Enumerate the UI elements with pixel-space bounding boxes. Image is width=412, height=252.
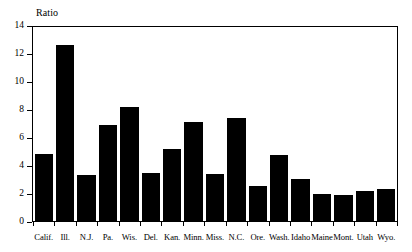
bar bbox=[120, 107, 138, 221]
bar-slot bbox=[183, 27, 204, 221]
x-axis-tick-label: Mont. bbox=[333, 231, 354, 247]
y-axis-tick bbox=[27, 110, 32, 111]
x-axis-tick bbox=[140, 222, 141, 226]
bar bbox=[377, 189, 395, 221]
bar bbox=[270, 155, 288, 221]
x-axis-tick bbox=[97, 222, 98, 226]
bar-slot bbox=[97, 27, 118, 221]
y-axis-tick-label: 14 bbox=[0, 21, 24, 31]
y-axis-tick-label: 10 bbox=[0, 77, 24, 87]
x-axis-tick bbox=[119, 222, 120, 226]
bar-slot bbox=[333, 27, 354, 221]
x-axis-tick-label: Idaho bbox=[290, 231, 311, 247]
bar-slot bbox=[33, 27, 54, 221]
x-axis-tick bbox=[204, 222, 205, 226]
x-axis-tick bbox=[290, 222, 291, 226]
bar bbox=[249, 186, 267, 221]
x-axis-tick-label: Wash. bbox=[268, 231, 289, 247]
bar-slot bbox=[140, 27, 161, 221]
y-axis-tick bbox=[27, 222, 32, 223]
bar-slot bbox=[204, 27, 225, 221]
bar-slot bbox=[226, 27, 247, 221]
bar-slot bbox=[54, 27, 75, 221]
x-axis-tick bbox=[247, 222, 248, 226]
x-axis-tick bbox=[376, 222, 377, 226]
bar bbox=[356, 191, 374, 221]
x-axis-tick bbox=[54, 222, 55, 226]
bar bbox=[35, 154, 53, 221]
bar bbox=[227, 118, 245, 221]
x-axis-tick bbox=[161, 222, 162, 226]
x-axis-tick-label: Ore. bbox=[247, 231, 268, 247]
x-axis-tick-label: Minn. bbox=[183, 231, 204, 247]
x-axis-tick-label: Wis. bbox=[119, 231, 140, 247]
x-axis-tick-label: N.C. bbox=[226, 231, 247, 247]
y-axis-tick bbox=[27, 166, 32, 167]
bar-slot bbox=[268, 27, 289, 221]
x-axis-tick bbox=[311, 222, 312, 226]
bar bbox=[77, 175, 95, 221]
x-axis-tick-label: Maine bbox=[311, 231, 332, 247]
bar bbox=[291, 179, 309, 221]
bar bbox=[334, 195, 352, 221]
bar-slot bbox=[161, 27, 182, 221]
y-axis-tick bbox=[27, 26, 32, 27]
x-axis-tick bbox=[354, 222, 355, 226]
x-axis-tick-label: Del. bbox=[140, 231, 161, 247]
bar-slot bbox=[76, 27, 97, 221]
x-axis-tick-label: Pa. bbox=[97, 231, 118, 247]
y-axis-tick-label: 4 bbox=[0, 161, 24, 171]
x-axis-tick bbox=[269, 222, 270, 226]
x-axis-tick-label: Utah bbox=[354, 231, 375, 247]
bar-slot bbox=[354, 27, 375, 221]
x-axis-tick bbox=[397, 222, 398, 226]
y-axis-tick bbox=[27, 82, 32, 83]
bar-chart-figure: Ratio Calif.Ill.N.J.Pa.Wis.Del.Kan.Minn.… bbox=[0, 0, 412, 252]
y-axis-tick-label: 6 bbox=[0, 133, 24, 143]
bar-slot bbox=[376, 27, 397, 221]
x-axis-labels: Calif.Ill.N.J.Pa.Wis.Del.Kan.Minn.Miss.N… bbox=[33, 231, 397, 247]
bar-slot bbox=[247, 27, 268, 221]
bar-slot bbox=[290, 27, 311, 221]
y-axis-tick bbox=[27, 54, 32, 55]
y-axis-tick bbox=[27, 194, 32, 195]
x-axis-tick-label: Ill. bbox=[54, 231, 75, 247]
y-axis-tick-label: 2 bbox=[0, 189, 24, 199]
y-axis-title: Ratio bbox=[36, 7, 58, 19]
y-axis-tick bbox=[27, 138, 32, 139]
bar bbox=[163, 149, 181, 221]
x-axis-tick bbox=[333, 222, 334, 226]
x-axis-tick-label: Kan. bbox=[161, 231, 182, 247]
x-axis-tick bbox=[226, 222, 227, 226]
x-axis-tick bbox=[183, 222, 184, 226]
y-axis-tick-label: 12 bbox=[0, 49, 24, 59]
bars-container bbox=[33, 27, 397, 221]
x-axis-tick-label: N.J. bbox=[76, 231, 97, 247]
x-axis-tick bbox=[76, 222, 77, 226]
bar bbox=[56, 45, 74, 221]
bar-slot bbox=[311, 27, 332, 221]
bar bbox=[99, 125, 117, 221]
x-axis-tick-label: Miss. bbox=[204, 231, 225, 247]
x-axis-tick bbox=[33, 222, 34, 226]
x-axis-tick-label: Wyo. bbox=[376, 231, 397, 247]
bar-slot bbox=[119, 27, 140, 221]
y-axis-tick-label: 0 bbox=[0, 217, 24, 227]
bar bbox=[184, 122, 202, 221]
bar bbox=[142, 173, 160, 221]
bar bbox=[313, 194, 331, 221]
x-axis-tick-label: Calif. bbox=[33, 231, 54, 247]
y-axis-tick-label: 8 bbox=[0, 105, 24, 115]
bar bbox=[206, 174, 224, 221]
